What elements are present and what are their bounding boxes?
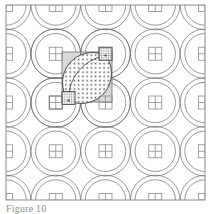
figure-caption: Figure 10 bbox=[6, 203, 46, 214]
figure-container: Figure 10 bbox=[0, 0, 212, 214]
quilt-pattern-diagram bbox=[0, 0, 212, 214]
figure-background bbox=[0, 0, 212, 214]
lens-tip-block-top bbox=[99, 47, 112, 60]
lens-tip-block-bottom bbox=[62, 92, 75, 105]
